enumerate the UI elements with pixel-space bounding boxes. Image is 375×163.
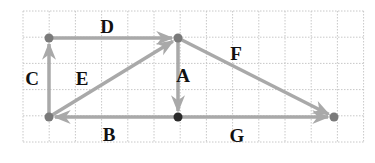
labels: ABCDEFG <box>25 16 244 146</box>
vector-label-g: G <box>230 125 245 146</box>
point-p5 <box>330 113 339 122</box>
point-p4 <box>174 113 183 122</box>
vector-f-arrow <box>178 38 329 114</box>
vector-label-c: C <box>25 68 39 89</box>
point-p2 <box>174 34 183 43</box>
point-p1 <box>45 34 54 43</box>
grid <box>23 11 364 142</box>
vector-label-a: A <box>176 65 190 86</box>
vector-diagram: ABCDEFG <box>0 0 375 163</box>
vector-e-arrow <box>49 41 173 117</box>
vector-label-f: F <box>230 43 242 64</box>
vector-label-b: B <box>103 124 116 145</box>
vector-label-d: D <box>100 16 114 37</box>
point-p3 <box>45 113 54 122</box>
vector-label-e: E <box>76 68 89 89</box>
